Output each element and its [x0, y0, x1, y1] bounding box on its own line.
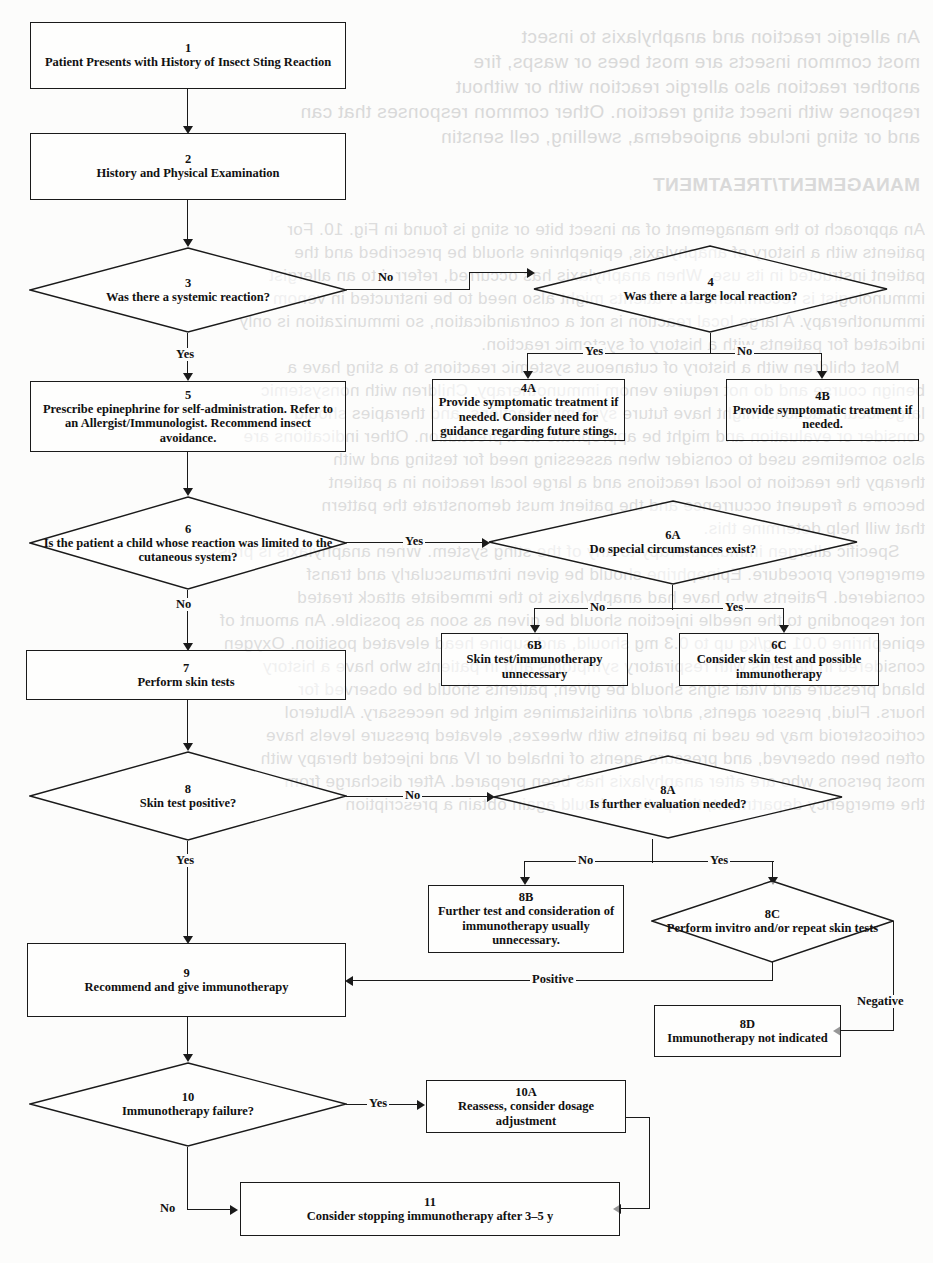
edge-8c-negative-horizontal — [840, 1030, 894, 1031]
bleed-text-block-2: MANAGEMENT/TREATMENT — [360, 172, 920, 197]
edge-label-6a-yes: Yes — [723, 601, 745, 614]
node-6b-number: 6B — [527, 638, 542, 652]
edge-label-4-yes: Yes — [583, 345, 605, 358]
edge-3-no-vertical — [469, 272, 470, 290]
node-8b-text: Further test and consideration of immuno… — [429, 904, 623, 948]
node-6-number: 6 — [29, 522, 347, 536]
node-10: 10 Immunotherapy failure? — [29, 1062, 347, 1147]
edge-8c-positive-drop — [772, 962, 773, 981]
node-3: 3 Was there a systemic reaction? — [29, 247, 347, 333]
edge-10-no-vertical — [187, 1147, 188, 1210]
edge-8a-split-bar — [524, 861, 774, 862]
edge-10a-vertical — [649, 1117, 650, 1209]
node-4b-text: Provide symptomatic treatment if needed. — [727, 403, 918, 432]
edge-8c-positive-arrowhead — [345, 976, 353, 986]
edge-9-to-10-arrowhead — [183, 1054, 193, 1062]
node-3-label: 3 Was there a systemic reaction? — [101, 276, 275, 305]
node-6c-text: Consider skin test and possible immunoth… — [680, 652, 878, 681]
node-6-text: Is the patient a child whose reaction wa… — [29, 536, 347, 565]
edge-10a-horizontal-out — [626, 1117, 650, 1118]
edge-label-6-yes: Yes — [403, 535, 425, 548]
node-1-text: Patient Presents with History of Insect … — [40, 55, 336, 70]
node-6-label: 6 Is the patient a child whose reaction … — [29, 522, 347, 565]
edge-5-to-6-arrowhead — [183, 488, 193, 496]
edge-10-no-horizontal — [187, 1209, 233, 1210]
node-8c-number: 8C — [662, 907, 883, 921]
node-7: 7 Perform skin tests — [26, 650, 346, 700]
edge-label-8-no: No — [403, 789, 422, 802]
edge-4-stem — [710, 333, 711, 354]
node-4a-number: 4A — [521, 381, 536, 395]
edge-4-split-bar — [527, 353, 822, 354]
node-7-text: Perform skin tests — [132, 675, 239, 690]
node-2: 2 History and Physical Examination — [30, 133, 346, 200]
node-8-label: 8 Skin test positive? — [135, 782, 242, 811]
edge-7-to-8 — [187, 700, 188, 748]
node-5-number: 5 — [185, 388, 191, 402]
edge-label-3-no: No — [376, 271, 395, 284]
edge-label-10-no: No — [158, 1202, 177, 1215]
node-10a-number: 10A — [515, 1085, 537, 1099]
edge-3-no-horizontal-b — [469, 272, 532, 273]
edge-label-8a-no: No — [576, 854, 595, 867]
node-6a: 6A Do special circumstances exist? — [488, 500, 858, 585]
flowchart-page: An allergic reaction and anaphylaxis to … — [0, 0, 933, 1263]
node-8a-label: 8A Is further evaluation needed? — [584, 783, 751, 812]
edge-1-to-2 — [187, 89, 188, 131]
edge-8a-stem — [652, 839, 653, 863]
node-8-number: 8 — [135, 782, 242, 796]
node-4b: 4B Provide symptomatic treatment if need… — [726, 379, 919, 441]
node-6c: 6C Consider skin test and possible immun… — [679, 633, 879, 686]
node-4b-number: 4B — [815, 389, 830, 403]
edge-label-8-yes: Yes — [174, 854, 196, 867]
node-4-number: 4 — [618, 275, 802, 289]
node-8c: 8C Perform invitro and/or repeat skin te… — [651, 880, 894, 963]
node-10-label: 10 Immunotherapy failure? — [117, 1090, 259, 1119]
edge-label-6-no: No — [174, 598, 193, 611]
node-8: 8 Skin test positive? — [29, 751, 347, 841]
node-2-number: 2 — [185, 152, 191, 166]
node-3-number: 3 — [101, 276, 275, 290]
edge-2-to-3 — [187, 200, 188, 243]
node-9-text: Recommend and give immunotherapy — [80, 980, 294, 995]
edge-8c-negative-vertical — [893, 921, 894, 1031]
node-8a-text: Is further evaluation needed? — [584, 797, 751, 812]
node-7-number: 7 — [183, 661, 189, 675]
edge-10-no-arrowhead — [230, 1205, 238, 1215]
node-8b: 8B Further test and consideration of imm… — [428, 885, 624, 953]
node-8c-text: Perform invitro and/or repeat skin tests — [662, 921, 883, 936]
edge-6a-split-bar — [534, 608, 784, 609]
node-6b-text: Skin test/immunotherapy unnecessary — [442, 652, 627, 681]
node-1: 1 Patient Presents with History of Insec… — [30, 22, 346, 89]
node-9: 9 Recommend and give immunotherapy — [27, 943, 346, 1017]
edge-4-yes-arrowhead — [523, 371, 533, 379]
edge-label-8c-positive: Positive — [530, 973, 576, 986]
edge-8a-no-arrowhead — [520, 877, 530, 885]
node-8d-number: 8D — [740, 1017, 755, 1031]
node-8c-label: 8C Perform invitro and/or repeat skin te… — [662, 907, 883, 936]
node-6a-label: 6A Do special circumstances exist? — [585, 528, 762, 557]
edge-label-8a-yes: Yes — [708, 854, 730, 867]
edge-label-4-no: No — [735, 345, 754, 358]
edge-3-no-horizontal-a — [346, 289, 470, 290]
node-4a: 4A Provide symptomatic treatment if need… — [432, 379, 625, 441]
edge-7-to-8-arrowhead — [183, 743, 193, 751]
node-10-text: Immunotherapy failure? — [117, 1104, 259, 1119]
node-5: 5 Prescribe epinephrine for self-adminis… — [30, 381, 346, 452]
bleed-text-block-1: An allergic reaction and anaphylaxis to … — [360, 24, 920, 149]
node-4: 4 Was there a large local reaction? — [533, 245, 888, 333]
node-4-label: 4 Was there a large local reaction? — [618, 275, 802, 304]
node-6a-number: 6A — [585, 528, 762, 542]
edge-6a-yes-arrowhead — [779, 625, 789, 633]
node-10-number: 10 — [117, 1090, 259, 1104]
node-6c-number: 6C — [771, 638, 786, 652]
edge-label-10-yes: Yes — [367, 1097, 389, 1110]
edge-6a-stem — [672, 585, 673, 610]
edge-label-6a-no: No — [588, 601, 607, 614]
node-9-number: 9 — [183, 966, 189, 980]
node-6b: 6B Skin test/immunotherapy unnecessary — [441, 633, 628, 686]
node-4-text: Was there a large local reaction? — [618, 289, 802, 304]
edge-3-yes-arrowhead — [183, 373, 193, 381]
node-6a-text: Do special circumstances exist? — [585, 542, 762, 557]
edge-4-no-arrowhead — [817, 371, 827, 379]
